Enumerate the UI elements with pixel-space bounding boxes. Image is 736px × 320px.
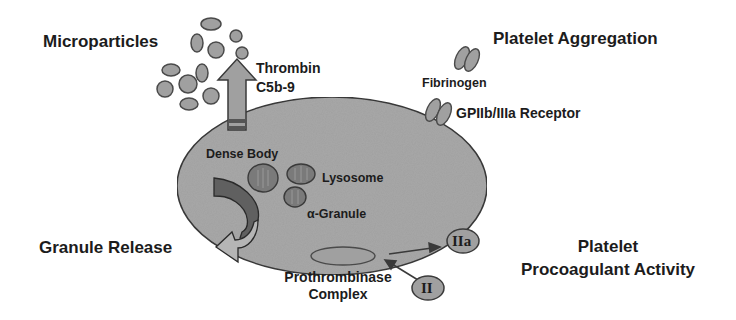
prothrombinase-complex-label: Prothrombinase Complex [258, 270, 418, 303]
microparticle [230, 30, 242, 42]
microparticle [196, 64, 208, 82]
fibrinogen-icon [451, 45, 482, 74]
gpiib-iiia-receptor-label: GPIIb/IIIa Receptor [456, 106, 580, 121]
microparticle [201, 18, 221, 30]
procoag-label-line1: Platelet [478, 238, 736, 257]
microparticle [191, 34, 203, 52]
iia-label: IIa [452, 233, 471, 250]
c5b9-label: C5b-9 [256, 80, 295, 95]
prothrombinase-label-line1: Prothrombinase [258, 270, 418, 285]
microparticle [162, 64, 180, 76]
ii-label: II [421, 280, 433, 297]
granule-release-label: Granule Release [39, 239, 172, 258]
microparticle [208, 42, 224, 58]
microparticle [179, 75, 197, 93]
dense-body-label: Dense Body [206, 148, 278, 162]
procoag-label-line2: Procoagulant Activity [478, 261, 736, 280]
platelet-aggregation-label: Platelet Aggregation [493, 30, 658, 49]
dense-body-organelle [248, 164, 278, 192]
microparticle [236, 47, 248, 59]
alpha-granule-organelle [284, 187, 306, 207]
lysosome-label: Lysosome [322, 172, 383, 186]
alpha-granule-label: α-Granule [307, 208, 366, 222]
microparticle [203, 88, 219, 104]
lysosome-organelle [287, 164, 315, 184]
microparticle [157, 81, 173, 97]
prothrombinase-label-line2: Complex [258, 287, 418, 302]
microparticle [180, 98, 198, 110]
thrombin-label: Thrombin [256, 61, 321, 76]
fibrinogen-label: Fibrinogen [422, 77, 487, 91]
platelet-procoagulant-activity-label: Platelet Procoagulant Activity [478, 238, 736, 279]
prothrombinase-complex-icon [311, 247, 375, 265]
microparticles-label: Microparticles [43, 33, 158, 52]
